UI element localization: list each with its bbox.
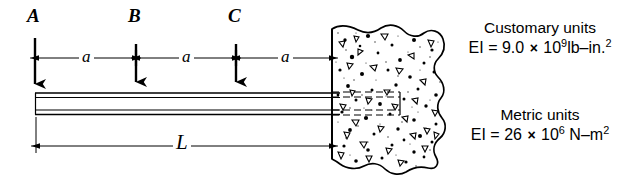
metric-units: N–m xyxy=(565,126,603,143)
dimension-label-a2: a xyxy=(179,48,194,65)
point-label-a: A xyxy=(27,6,40,25)
dimension-label-a1: a xyxy=(79,48,94,65)
metric-quantity: EI xyxy=(471,126,486,143)
metric-coefficient: 26 xyxy=(504,126,522,143)
customary-quantity: EI xyxy=(469,39,484,56)
metric-units-exponent: 2 xyxy=(603,124,609,136)
metric-units-equation: EI = 26 × 106 N–m2 xyxy=(447,125,633,146)
metric-base: 10 xyxy=(541,126,559,143)
customary-equals: = xyxy=(488,39,497,56)
dimension-label-a3: a xyxy=(278,48,293,65)
customary-units-exponent: 2 xyxy=(605,37,611,49)
customary-units: lb–in. xyxy=(567,39,605,56)
customary-coefficient: 9.0 xyxy=(502,39,524,56)
point-label-c: C xyxy=(228,6,241,25)
customary-times: × xyxy=(529,40,539,56)
metric-units-title: Metric units xyxy=(447,105,633,124)
metric-times: × xyxy=(526,127,536,143)
metric-units-note: Metric units EI = 26 × 106 N–m2 xyxy=(447,105,633,146)
point-label-b: B xyxy=(128,6,141,25)
customary-units-equation: EI = 9.0 × 109lb–in.2 xyxy=(447,38,633,59)
dimension-label-L: L xyxy=(173,132,191,153)
engineering-figure: A B C a a a L Customary units EI = 9.0 ×… xyxy=(0,0,635,177)
customary-base: 10 xyxy=(543,39,561,56)
metric-equals: = xyxy=(490,126,499,143)
customary-units-title: Customary units xyxy=(447,18,633,37)
customary-units-note: Customary units EI = 9.0 × 109lb–in.2 xyxy=(447,18,633,59)
wall-outline xyxy=(332,25,445,174)
beam xyxy=(35,93,340,115)
fixed-concrete-wall xyxy=(332,25,445,174)
